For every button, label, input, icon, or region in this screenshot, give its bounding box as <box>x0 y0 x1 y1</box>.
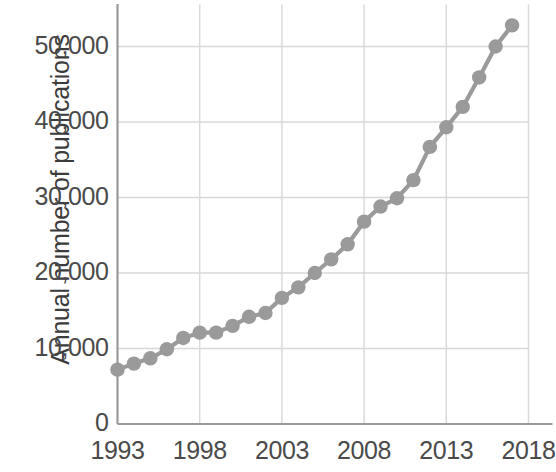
data-point[interactable] <box>423 140 437 154</box>
data-point[interactable] <box>488 39 502 53</box>
data-point[interactable] <box>357 214 371 228</box>
data-point[interactable] <box>291 280 305 294</box>
data-point[interactable] <box>340 237 354 251</box>
data-point[interactable] <box>439 120 453 134</box>
data-point[interactable] <box>275 291 289 305</box>
data-point[interactable] <box>160 342 174 356</box>
data-point[interactable] <box>209 325 223 339</box>
data-point[interactable] <box>225 319 239 333</box>
publications-line-chart: Annual number of publications 010,00020,… <box>0 0 556 472</box>
data-point[interactable] <box>110 362 124 376</box>
data-point[interactable] <box>390 191 404 205</box>
data-point[interactable] <box>127 356 141 370</box>
data-point[interactable] <box>193 325 207 339</box>
data-point[interactable] <box>456 100 470 114</box>
data-point[interactable] <box>406 173 420 187</box>
data-point[interactable] <box>242 310 256 324</box>
data-point[interactable] <box>472 70 486 84</box>
data-point[interactable] <box>324 252 338 266</box>
data-point[interactable] <box>308 266 322 280</box>
data-point[interactable] <box>176 331 190 345</box>
data-point[interactable] <box>143 351 157 365</box>
data-point[interactable] <box>258 306 272 320</box>
plot-area <box>0 0 556 472</box>
data-point[interactable] <box>373 199 387 213</box>
data-point[interactable] <box>505 18 519 32</box>
